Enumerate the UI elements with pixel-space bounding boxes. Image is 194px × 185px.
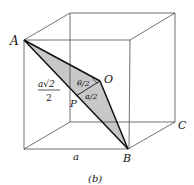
label-edge-a: a [73, 151, 79, 162]
label-A: A [9, 34, 19, 48]
label-C: C [178, 119, 187, 132]
fraction-numerator: a√2 [38, 79, 55, 89]
label-B: B [122, 152, 131, 165]
label-P: P [69, 98, 77, 109]
fraction-denominator: 2 [46, 93, 52, 103]
figure-caption: (b) [88, 173, 102, 184]
triangle-edges [24, 40, 128, 149]
cube-diagram: A O P C B a θ/2 a/2 a√2 2 (b) [0, 0, 194, 185]
label-O: O [104, 73, 113, 86]
label-a-half: a/2 [85, 92, 98, 101]
label-theta-half: θ/2 [77, 79, 90, 88]
